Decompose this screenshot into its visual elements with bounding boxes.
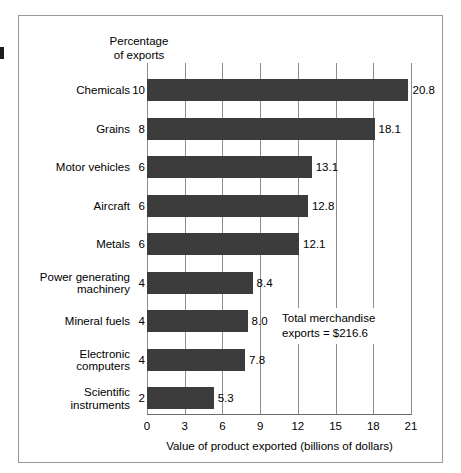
bar	[147, 156, 312, 178]
category-label: Power generatingmachinery	[0, 270, 130, 295]
total-merchandise-annotation: Total merchandise exports = $216.6	[277, 308, 380, 344]
percentage-of-exports-note: Percentage of exports	[79, 34, 199, 62]
bar-row: 12.1	[147, 233, 411, 255]
bar-value-label: 12.1	[299, 238, 325, 250]
percentage-of-exports-value: 6	[129, 200, 145, 212]
category-label-line: machinery	[0, 283, 130, 296]
category-label-line: Mineral fuels	[0, 315, 130, 328]
bar-value-label: 12.8	[308, 200, 334, 212]
x-tick-label-3: 3	[170, 420, 200, 432]
bar-value-label: 7.8	[245, 354, 265, 366]
bar-value-label: 8.0	[248, 315, 268, 327]
category-label: Grains	[0, 122, 130, 135]
bar-value-label: 20.8	[408, 84, 434, 96]
x-tick-label-21: 21	[396, 420, 426, 432]
gridline-21	[411, 63, 412, 414]
category-label-line: Scientific	[0, 386, 130, 399]
category-label-row: Mineral fuels4	[19, 310, 146, 332]
percentage-of-exports-value: 4	[129, 354, 145, 366]
bar-value-label: 5.3	[214, 392, 234, 404]
bar-value-label: 8.4	[253, 277, 273, 289]
bar-value-label: 18.1	[375, 123, 401, 135]
bar-row: 5.3	[147, 387, 411, 409]
x-tick-label-0: 0	[132, 420, 162, 432]
x-tick-label-12: 12	[283, 420, 313, 432]
bar	[147, 310, 248, 332]
category-label-line: Chemicals	[0, 84, 130, 97]
bar-row: 8.4	[147, 272, 411, 294]
bar-row: 13.1	[147, 156, 411, 178]
x-tick-label-15: 15	[321, 420, 351, 432]
category-label-row: Metals6	[19, 233, 146, 255]
category-label: Motor vehicles	[0, 161, 130, 174]
category-label-row: Aircraft6	[19, 195, 146, 217]
percentage-of-exports-line1: Percentage	[79, 34, 199, 48]
bar-row: 12.8	[147, 195, 411, 217]
category-label-row: Electroniccomputers4	[19, 349, 146, 371]
x-tick-label-9: 9	[245, 420, 275, 432]
bar	[147, 349, 245, 371]
total-merchandise-line1: Total merchandise	[282, 311, 375, 326]
category-label-line: Metals	[0, 238, 130, 251]
percentage-of-exports-value: 10	[129, 84, 145, 96]
chart-figure-frame: Percentage of exports 20.818.113.112.812…	[18, 15, 443, 463]
x-axis-title: Value of product exported (billions of d…	[147, 440, 412, 452]
category-label-row: Motor vehicles6	[19, 156, 146, 178]
category-label-line: Electronic	[0, 347, 130, 360]
category-label-line: Motor vehicles	[0, 161, 130, 174]
category-label-row: Scientificinstruments2	[19, 387, 146, 409]
category-label: Aircraft	[0, 199, 130, 212]
percentage-of-exports-value: 6	[129, 238, 145, 250]
category-label: Mineral fuels	[0, 315, 130, 328]
percentage-of-exports-value: 6	[129, 161, 145, 173]
bar-row: 7.8	[147, 349, 411, 371]
category-label: Metals	[0, 238, 130, 251]
page-edge-artifact	[0, 47, 4, 59]
bar	[147, 118, 375, 140]
percentage-of-exports-value: 4	[129, 315, 145, 327]
percentage-of-exports-value: 8	[129, 123, 145, 135]
category-label-line: Grains	[0, 122, 130, 135]
bar-value-label: 13.1	[312, 161, 338, 173]
bar-row: 20.8	[147, 79, 411, 101]
category-label-line: Aircraft	[0, 199, 130, 212]
category-label-line: instruments	[0, 398, 130, 411]
category-label-line: Power generating	[0, 270, 130, 283]
category-label: Chemicals	[0, 84, 130, 97]
percentage-of-exports-value: 4	[129, 277, 145, 289]
category-label: Electroniccomputers	[0, 347, 130, 372]
category-label-row: Power generatingmachinery4	[19, 272, 146, 294]
category-label-row: Chemicals10	[19, 79, 146, 101]
category-label-row: Grains8	[19, 118, 146, 140]
x-tick-label-18: 18	[358, 420, 388, 432]
bar	[147, 233, 299, 255]
x-axis-line	[147, 414, 412, 415]
bar	[147, 272, 253, 294]
percentage-of-exports-line2: of exports	[79, 48, 199, 62]
total-merchandise-line2: exports = $216.6	[282, 326, 375, 341]
bar-row: 18.1	[147, 118, 411, 140]
percentage-of-exports-value: 2	[129, 392, 145, 404]
bar	[147, 387, 214, 409]
bar	[147, 195, 308, 217]
category-label: Scientificinstruments	[0, 386, 130, 411]
x-tick-label-6: 6	[207, 420, 237, 432]
bar	[147, 79, 408, 101]
category-label-line: computers	[0, 360, 130, 373]
